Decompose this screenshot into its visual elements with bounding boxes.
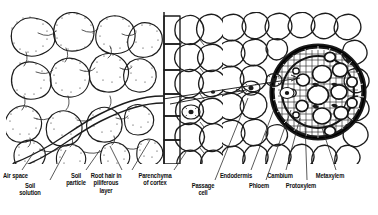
label-soil-solution: Soil solution [4,182,57,197]
stele-nucleus-cell [280,88,294,99]
label-root-hair: Root hair in piliferous layer [80,172,133,194]
label-protoxylem: Protoxylem [275,182,328,189]
label-passage-cell: Passage cell [177,182,230,197]
label-parenchyma: Parenchyma of cortex [129,172,182,187]
label-air-space: Air space [3,172,28,179]
label-metaxylem: Metaxylem [304,172,357,179]
label-cambium: Cambium [254,172,307,179]
